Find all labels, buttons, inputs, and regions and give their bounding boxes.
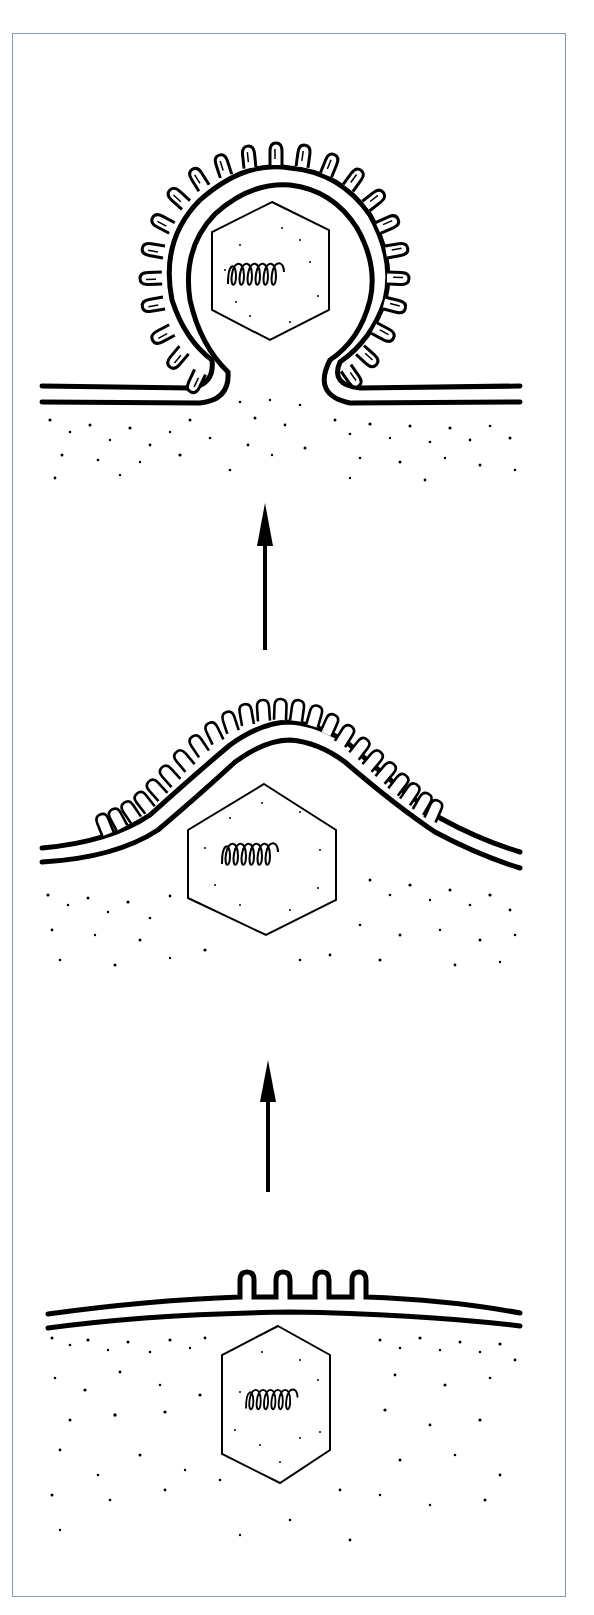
host-membrane bbox=[48, 1272, 520, 1328]
capsid bbox=[212, 202, 329, 340]
stage-2-envelopment bbox=[42, 699, 520, 967]
capsid bbox=[188, 784, 336, 935]
stage-3-budding-virion bbox=[42, 143, 520, 481]
stage-1-spike-insertion bbox=[48, 1272, 520, 1541]
arrow-stage1-to-stage2 bbox=[260, 1060, 276, 1192]
figure-caption bbox=[40, 1604, 560, 1615]
budding-diagram bbox=[0, 0, 594, 1615]
cytoplasm-stipple bbox=[48, 399, 516, 482]
arrow-stage2-to-stage3 bbox=[257, 503, 273, 650]
capsid bbox=[222, 1326, 330, 1483]
